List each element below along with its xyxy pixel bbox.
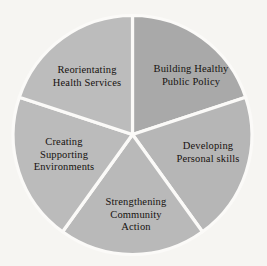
pie-chart-svg [0, 0, 267, 266]
pie-chart-figure: Reorientating Health Services Building H… [0, 0, 267, 266]
